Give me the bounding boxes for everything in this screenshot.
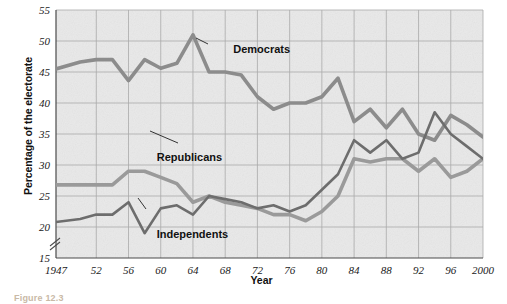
line-chart-svg: 152025303540455055 194752566064687276808…	[0, 0, 507, 304]
svg-text:40: 40	[39, 97, 51, 109]
y-axis-tick-labels: 152025303540455055	[38, 4, 51, 264]
figure-chart: Percentage of the electorate 15202530354…	[0, 0, 507, 304]
svg-text:20: 20	[39, 221, 51, 233]
svg-text:45: 45	[39, 66, 51, 78]
x-axis-title-text: Year	[250, 274, 272, 286]
series-label-republicans: Republicans	[157, 151, 222, 163]
series-label-independents: Independents	[157, 228, 229, 240]
svg-text:55: 55	[39, 4, 51, 16]
svg-text:15: 15	[39, 252, 51, 264]
svg-text:25: 25	[39, 190, 51, 202]
x-axis-title: Year	[0, 274, 507, 286]
svg-text:50: 50	[39, 35, 51, 47]
figure-caption: Figure 12.3	[14, 293, 64, 304]
svg-text:30: 30	[38, 159, 51, 171]
svg-text:35: 35	[38, 128, 51, 140]
series-label-democrats: Democrats	[233, 43, 290, 55]
